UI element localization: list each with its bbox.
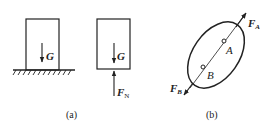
line-of-action bbox=[190, 17, 243, 88]
force-b-label: FB bbox=[169, 82, 182, 96]
two-force-body: A B FA FB bbox=[169, 11, 260, 98]
free-body-diagram: G FN bbox=[97, 19, 130, 100]
block-on-ground: G bbox=[13, 19, 75, 75]
weight-label: G bbox=[46, 50, 54, 62]
force-a-label: FA bbox=[247, 17, 260, 31]
point-b-label: B bbox=[207, 69, 214, 81]
caption-b: (b) bbox=[206, 109, 218, 121]
caption-a: (a) bbox=[66, 109, 77, 121]
point-a-marker bbox=[222, 39, 226, 43]
normal-force-label: FN bbox=[116, 86, 129, 100]
ground-hatch bbox=[13, 70, 71, 75]
point-b-marker bbox=[201, 65, 205, 69]
weight-label: G bbox=[117, 50, 125, 62]
point-a-label: A bbox=[225, 44, 233, 56]
diagram-canvas: G G FN (a) A B FA FB (b) bbox=[0, 0, 269, 132]
force-a-arrow-icon bbox=[236, 13, 246, 27]
force-b-arrow-icon bbox=[184, 83, 193, 95]
